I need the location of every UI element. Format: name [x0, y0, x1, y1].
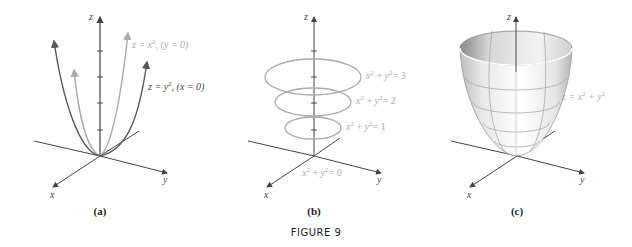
caption-c: (c) — [511, 205, 524, 218]
curve-z-x2-label: z = x2, (y = 0) — [131, 38, 189, 51]
panel-c: z x y z = x2 + y2 — [451, 11, 606, 200]
level-label-0: x2 + y2= 0 — [301, 166, 342, 178]
x-axis-label: x — [49, 189, 55, 200]
panel-a: z x y z = x2, (y = 0) z = y2, (x = 0) — [34, 11, 205, 200]
figure-canvas: z x y z = x2, (y = 0) z = y2, (x = 0) z … — [0, 0, 632, 247]
level-label-3: x2 + y2= 3 — [365, 69, 406, 81]
curve-z-y2-right — [100, 62, 147, 156]
x-axis — [470, 156, 517, 187]
y-axis-label: y — [376, 174, 382, 185]
figure-caption: FIGURE 9 — [291, 227, 342, 238]
caption-b: (b) — [307, 205, 321, 218]
caption-a: (a) — [94, 205, 107, 218]
z-axis-label: z — [88, 11, 93, 22]
axis-back-left — [248, 141, 314, 156]
axis-back-right — [314, 138, 340, 156]
x-axis-label: x — [263, 189, 269, 200]
level-label-2: x2 + y2= 2 — [355, 94, 396, 106]
curve-z-x2-left — [74, 70, 100, 156]
level-label-1: x2 + y2= 1 — [345, 120, 386, 132]
curve-z-x2-right — [100, 33, 128, 156]
y-axis — [517, 156, 584, 173]
z-axis-label: z — [506, 11, 511, 22]
panel-b: z x y x2 + y2= 3 x2 + y2= 2 x2 + y2= 1 x… — [248, 11, 406, 200]
y-axis-label: y — [162, 174, 168, 185]
y-axis-label: y — [579, 174, 585, 185]
surface-equation-label: z = x2 + y2 — [561, 90, 606, 102]
curve-z-y2-label: z = y2, (x = 0) — [147, 80, 205, 93]
x-axis — [53, 156, 100, 187]
x-axis-label: x — [466, 189, 472, 200]
level-curve-1 — [285, 117, 341, 139]
level-curve-2 — [275, 88, 351, 116]
axis-back-right — [100, 131, 139, 156]
y-axis — [100, 156, 167, 173]
z-axis-label: z — [303, 11, 308, 22]
